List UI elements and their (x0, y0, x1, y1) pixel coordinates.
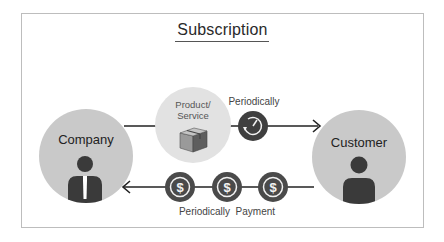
company-label: Company (46, 132, 126, 147)
product-label-line1: Product/ (163, 99, 223, 110)
box-icon (180, 128, 207, 152)
company-node (39, 109, 133, 203)
payment-label: Periodically Payment (178, 206, 276, 217)
clock-refresh-icon (238, 111, 268, 141)
svg-text:$: $ (176, 180, 184, 195)
dollar-coin-icon: $ (258, 172, 288, 202)
dollar-coin-icon: $ (165, 172, 195, 202)
delivery-periodically-label: Periodically (225, 96, 283, 107)
customer-label: Customer (317, 135, 401, 150)
svg-text:$: $ (223, 180, 231, 195)
customer-node (312, 110, 406, 205)
dollar-coin-icon: $ (212, 172, 242, 202)
product-label-line2: Service (163, 110, 223, 121)
svg-text:$: $ (269, 180, 277, 195)
